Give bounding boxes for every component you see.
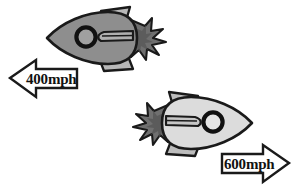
rocket-lower-right-porthole [203,112,222,131]
rocket-upper-left-side-stripe [98,31,133,41]
diagram-canvas: 400mph 600mph [0,0,299,191]
speed-arrow-right-label: 600mph [224,156,275,172]
rockets-and-speed-arrows-illustration: 400mph 600mph [0,0,299,191]
rocket-upper-left-porthole [76,27,95,46]
rocket-lower-right-side-stripe [166,116,201,126]
speed-arrow-left-label: 400mph [26,71,77,87]
